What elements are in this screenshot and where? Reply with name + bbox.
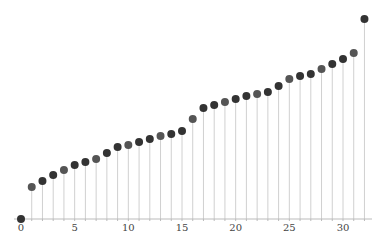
x-tick-label: 15: [176, 222, 189, 233]
data-point: [157, 132, 165, 140]
x-tick-label: 25: [283, 222, 296, 233]
data-point: [199, 104, 207, 112]
data-point: [38, 177, 46, 185]
data-point: [60, 166, 68, 174]
data-point: [81, 158, 89, 166]
data-point: [221, 98, 229, 106]
data-point: [296, 72, 304, 80]
x-tick-label: 5: [71, 222, 77, 233]
data-point: [360, 15, 368, 23]
data-point: [307, 70, 315, 78]
x-tick-label: 0: [18, 222, 24, 233]
x-tick-label: 20: [229, 222, 242, 233]
data-point: [124, 141, 132, 149]
data-point: [71, 161, 79, 169]
data-point: [264, 88, 272, 96]
x-axis-tick-labels: 051015202530: [18, 222, 350, 233]
x-tick-label: 30: [337, 222, 350, 233]
data-point: [92, 155, 100, 163]
stem-chart: 051015202530: [0, 0, 388, 250]
data-point: [339, 55, 347, 63]
data-point: [350, 49, 358, 57]
data-point: [189, 115, 197, 123]
x-tick-label: 10: [122, 222, 135, 233]
data-point: [210, 101, 218, 109]
data-point: [49, 171, 57, 179]
data-point: [253, 90, 261, 98]
data-point: [242, 92, 250, 100]
data-point: [275, 82, 283, 90]
data-point: [28, 183, 36, 191]
data-point: [318, 65, 326, 73]
data-point: [17, 215, 25, 223]
data-point: [114, 143, 122, 151]
data-point: [103, 149, 111, 157]
data-point: [178, 127, 186, 135]
data-point: [285, 75, 293, 83]
data-point: [135, 138, 143, 146]
data-point: [328, 60, 336, 68]
data-point: [167, 130, 175, 138]
data-point: [232, 95, 240, 103]
data-point: [146, 135, 154, 143]
